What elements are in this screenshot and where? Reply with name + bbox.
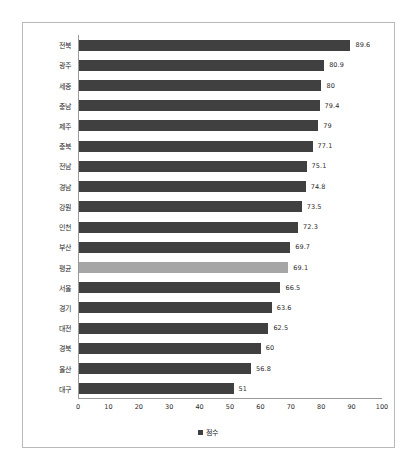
bar-row: 66.5 xyxy=(79,278,382,298)
category-label: 인천 xyxy=(23,217,71,237)
bar: 62.5 xyxy=(79,323,268,334)
value-axis-tick: 60 xyxy=(256,403,264,411)
bar-row: 60 xyxy=(79,338,382,358)
bar-value-label: 72.3 xyxy=(303,223,318,231)
chart-legend: 점수 xyxy=(23,427,394,437)
legend-label-score: 점수 xyxy=(206,427,218,437)
bar-value-label: 77.1 xyxy=(318,142,333,150)
bar-row: 77.1 xyxy=(79,136,382,156)
category-label: 충북 xyxy=(23,136,71,156)
scan-speck xyxy=(323,183,324,186)
category-label: 충남 xyxy=(23,96,71,116)
bar-value-label: 69.1 xyxy=(293,264,308,272)
bar-value-label: 73.5 xyxy=(307,203,322,211)
bar: 89.6 xyxy=(79,40,350,51)
value-axis-tick: 90 xyxy=(347,403,355,411)
bar-row: 56.8 xyxy=(79,359,382,379)
bar: 79 xyxy=(79,120,318,131)
bar-value-label: 60 xyxy=(266,344,274,352)
bar-row: 80 xyxy=(79,75,382,95)
value-axis-tick: 50 xyxy=(226,403,234,411)
category-label: 세종 xyxy=(23,75,71,95)
bar-row: 51 xyxy=(79,379,382,399)
bar: 69.7 xyxy=(79,242,290,253)
bar-value-label: 69.7 xyxy=(295,243,310,251)
legend-swatch-score xyxy=(198,430,203,435)
category-label: 대구 xyxy=(23,379,71,399)
bar-row: 62.5 xyxy=(79,318,382,338)
category-label: 전북 xyxy=(23,35,71,55)
value-axis-tick: 70 xyxy=(287,403,295,411)
bar-row: 80.9 xyxy=(79,55,382,75)
value-axis-tick: 10 xyxy=(104,403,112,411)
bar-row: 79.4 xyxy=(79,96,382,116)
value-axis-tick: 40 xyxy=(195,403,203,411)
bar-value-label: 80.9 xyxy=(329,61,344,69)
bar-value-label: 80 xyxy=(326,82,334,90)
bar-average: 69.1 xyxy=(79,262,288,273)
category-label: 전남 xyxy=(23,156,71,176)
bar-row: 89.6 xyxy=(79,35,382,55)
bar: 75.1 xyxy=(79,161,307,172)
category-label: 강원 xyxy=(23,197,71,217)
bar: 73.5 xyxy=(79,201,302,212)
bar: 79.4 xyxy=(79,100,320,111)
chart-frame: 전북광주세종충남제주충북전남경남강원인천부산평균서울경기대전경북울산대구 89.… xyxy=(22,22,395,448)
bar-value-label: 79.4 xyxy=(325,102,340,110)
category-label: 대전 xyxy=(23,318,71,338)
value-axis-tick: 80 xyxy=(317,403,325,411)
value-axis-line xyxy=(78,398,382,399)
bar: 80.9 xyxy=(79,60,324,71)
bar-row: 69.7 xyxy=(79,237,382,257)
bar: 72.3 xyxy=(79,222,298,233)
bar: 66.5 xyxy=(79,282,280,293)
bar: 51 xyxy=(79,383,234,394)
bar: 74.8 xyxy=(79,181,306,192)
bar-row: 74.8 xyxy=(79,177,382,197)
category-label: 제주 xyxy=(23,116,71,136)
bar-value-label: 63.6 xyxy=(277,304,292,312)
bar-series: 89.680.98079.47977.175.174.873.572.369.7… xyxy=(79,35,382,399)
bar: 60 xyxy=(79,343,261,354)
bar-row: 72.3 xyxy=(79,217,382,237)
bar-row: 75.1 xyxy=(79,156,382,176)
bar: 63.6 xyxy=(79,302,272,313)
category-label: 경남 xyxy=(23,177,71,197)
bar-value-label: 79 xyxy=(323,122,331,130)
plot-area: 89.680.98079.47977.175.174.873.572.369.7… xyxy=(78,35,382,399)
bar-value-label: 62.5 xyxy=(273,324,288,332)
value-axis-tick-labels: 0102030405060708090100 xyxy=(78,403,382,415)
value-axis-tick: 20 xyxy=(135,403,143,411)
bar: 80 xyxy=(79,80,321,91)
category-label: 서울 xyxy=(23,278,71,298)
bar: 56.8 xyxy=(79,363,251,374)
bar-value-label: 56.8 xyxy=(256,365,271,373)
bar-value-label: 66.5 xyxy=(285,284,300,292)
category-label: 울산 xyxy=(23,359,71,379)
category-label: 광주 xyxy=(23,55,71,75)
category-label: 평균 xyxy=(23,257,71,277)
category-label: 경북 xyxy=(23,338,71,358)
bar-row: 63.6 xyxy=(79,298,382,318)
bar-row: 79 xyxy=(79,116,382,136)
bar: 77.1 xyxy=(79,141,313,152)
bar-value-label: 51 xyxy=(239,385,247,393)
bar-value-label: 89.6 xyxy=(355,41,370,49)
bar-value-label: 75.1 xyxy=(312,162,327,170)
bar-row: 73.5 xyxy=(79,197,382,217)
value-axis-tick: 0 xyxy=(76,403,80,411)
category-label: 부산 xyxy=(23,237,71,257)
category-axis-labels: 전북광주세종충남제주충북전남경남강원인천부산평균서울경기대전경북울산대구 xyxy=(23,35,78,399)
value-axis-tick: 30 xyxy=(165,403,173,411)
bar-row: 69.1 xyxy=(79,257,382,277)
value-axis-tick: 100 xyxy=(376,403,388,411)
category-label: 경기 xyxy=(23,298,71,318)
